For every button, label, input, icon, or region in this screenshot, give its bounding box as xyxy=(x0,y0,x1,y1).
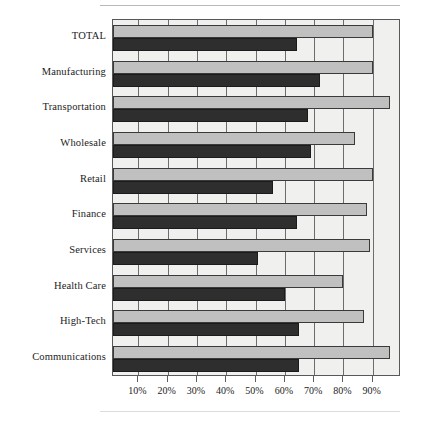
bar-group xyxy=(113,234,399,270)
bar-group xyxy=(113,56,399,92)
x-tick-90pct xyxy=(372,376,373,382)
category-label-health-care: Health Care xyxy=(0,280,106,291)
bar-lower-services xyxy=(113,252,258,265)
bar-upper-manufacturing xyxy=(113,61,373,74)
x-axis-tick-strip xyxy=(112,376,400,383)
x-axis-label-10pct: 10% xyxy=(128,384,146,397)
category-axis: TOTALManufacturingTransportationWholesal… xyxy=(0,18,110,376)
x-tick-50pct xyxy=(255,376,256,382)
x-tick-10pct xyxy=(137,376,138,382)
bar-group xyxy=(113,127,399,163)
bar-group xyxy=(113,91,399,127)
category-label-manufacturing: Manufacturing xyxy=(0,66,106,77)
bar-upper-health-care xyxy=(113,275,343,288)
bar-upper-high-tech xyxy=(113,310,364,323)
x-tick-30pct xyxy=(196,376,197,382)
bar-group xyxy=(113,270,399,306)
bar-lower-transportation xyxy=(113,109,308,122)
bar-lower-high-tech xyxy=(113,323,299,336)
bar-lower-retail xyxy=(113,181,273,194)
x-axis-label-80pct: 80% xyxy=(333,384,351,397)
x-axis-label-90pct: 90% xyxy=(363,384,381,397)
x-tick-80pct xyxy=(342,376,343,382)
bar-upper-retail xyxy=(113,168,373,181)
bar-lower-manufacturing xyxy=(113,74,320,87)
category-label-finance: Finance xyxy=(0,208,106,219)
category-label-high-tech: High-Tech xyxy=(0,315,106,326)
bar-upper-services xyxy=(113,239,370,252)
category-label-retail: Retail xyxy=(0,173,106,184)
top-divider-rule xyxy=(100,5,400,6)
x-axis-label-40pct: 40% xyxy=(216,384,234,397)
x-tick-40pct xyxy=(225,376,226,382)
bar-lower-health-care xyxy=(113,288,285,301)
x-axis-label-20pct: 20% xyxy=(157,384,175,397)
category-label-wholesale: Wholesale xyxy=(0,137,106,148)
x-tick-20pct xyxy=(167,376,168,382)
bar-group xyxy=(113,199,399,235)
x-axis-labels: 10%20%30%40%50%60%70%80%90% xyxy=(112,384,400,400)
x-tick-60pct xyxy=(284,376,285,382)
bar-group xyxy=(113,306,399,342)
bottom-divider-rule xyxy=(100,411,400,412)
plot-area xyxy=(112,19,400,376)
x-axis-label-30pct: 30% xyxy=(187,384,205,397)
bar-upper-communications xyxy=(113,346,390,359)
bar-upper-transportation xyxy=(113,96,390,109)
bar-lower-wholesale xyxy=(113,145,311,158)
bar-group xyxy=(113,163,399,199)
category-label-transportation: Transportation xyxy=(0,101,106,112)
category-label-services: Services xyxy=(0,244,106,255)
x-axis-label-70pct: 70% xyxy=(304,384,322,397)
bar-chart-figure: TOTALManufacturingTransportationWholesal… xyxy=(0,0,422,425)
x-tick-70pct xyxy=(313,376,314,382)
category-label-total: TOTAL xyxy=(0,30,106,41)
bar-group xyxy=(113,20,399,56)
bar-lower-finance xyxy=(113,216,297,229)
category-label-communications: Communications xyxy=(0,351,106,362)
x-axis-label-60pct: 60% xyxy=(275,384,293,397)
bar-upper-wholesale xyxy=(113,132,355,145)
x-axis-label-50pct: 50% xyxy=(245,384,263,397)
bar-group xyxy=(113,341,399,377)
bar-upper-total xyxy=(113,25,373,38)
bar-upper-finance xyxy=(113,203,367,216)
bar-lower-total xyxy=(113,38,297,51)
bar-lower-communications xyxy=(113,359,299,372)
